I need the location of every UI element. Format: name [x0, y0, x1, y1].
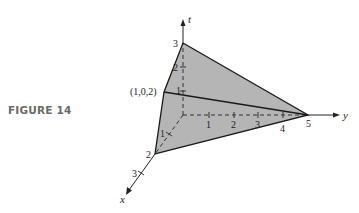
y-axis-label: y — [342, 109, 348, 121]
y-axis-arrow-icon — [333, 113, 340, 118]
x-tick-1: 1 — [160, 128, 165, 139]
y-tick-4: 4 — [280, 123, 285, 134]
3d-region-diagram: 3 2 1 1 2 3 4 5 1 2 3 (1,0,2) t y x — [0, 0, 359, 213]
y-tick-2: 2 — [231, 119, 236, 130]
x-tick-2: 2 — [146, 149, 151, 160]
t-tick-3: 3 — [173, 38, 178, 49]
t-axis-label: t — [188, 13, 192, 25]
t-axis-arrow-icon — [181, 19, 186, 26]
point-label-1-0-2: (1,0,2) — [130, 86, 157, 98]
t-tick-1: 1 — [176, 85, 181, 96]
y-tick-5: 5 — [306, 118, 311, 129]
y-tick-3: 3 — [255, 119, 260, 130]
y-tick-1: 1 — [206, 119, 211, 130]
t-tick-2: 2 — [173, 62, 178, 73]
x-axis-label: x — [119, 193, 125, 205]
x-tick-3: 3 — [132, 168, 137, 179]
x-axis-arrow-icon — [126, 187, 132, 195]
